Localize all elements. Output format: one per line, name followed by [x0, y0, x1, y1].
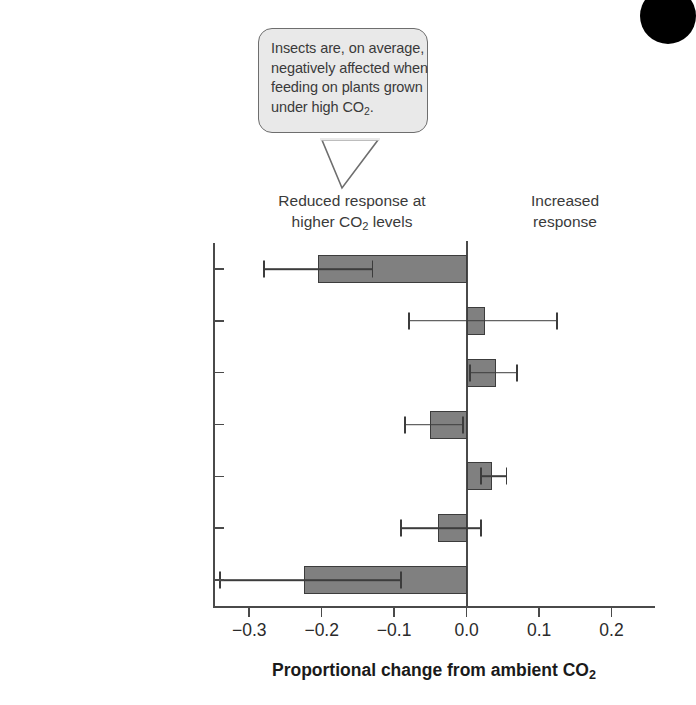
- callout-line-4-text: under high CO: [271, 99, 364, 115]
- error-bar-line: [470, 372, 517, 374]
- annotation-reduced-line2-post: levels: [368, 213, 412, 230]
- error-bar-cap: [462, 416, 464, 433]
- error-bar-cap: [556, 312, 558, 329]
- callout-line-1: Insects are, on average,: [271, 39, 415, 59]
- y-tick: [213, 372, 224, 374]
- annotation-increased-response: Increased response: [490, 190, 640, 232]
- x-tick-label: −0.3: [232, 620, 267, 641]
- annotation-increased-line2: response: [490, 211, 640, 232]
- error-bar-cap: [400, 520, 402, 537]
- x-tick-label: −0.1: [377, 620, 412, 641]
- annotation-increased-line1: Increased: [490, 190, 640, 211]
- corner-dot-decoration: [640, 0, 696, 44]
- callout-line-3: feeding on plants grown: [271, 78, 415, 98]
- y-axis-line: [213, 243, 215, 608]
- error-bar-cap: [404, 416, 406, 433]
- error-bar-line: [264, 268, 373, 270]
- annotation-reduced-response: Reduced response at higher CO2 levels: [238, 190, 466, 237]
- x-tick-label: 0.2: [599, 620, 623, 641]
- y-tick: [213, 320, 224, 322]
- x-tick-label: −0.2: [304, 620, 339, 641]
- x-axis-title: Proportional change from ambient CO2: [213, 660, 655, 682]
- error-bar-cap: [408, 312, 410, 329]
- x-tick: [538, 606, 540, 617]
- callout-box: Insects are, on average, negatively affe…: [258, 28, 428, 133]
- plot-area: −0.3−0.2−0.10.00.10.2: [213, 243, 655, 608]
- y-tick: [213, 579, 224, 581]
- error-bar-cap: [480, 520, 482, 537]
- error-bar-cap: [372, 260, 374, 277]
- error-bar-cap: [400, 572, 402, 589]
- y-tick: [213, 268, 224, 270]
- error-bar-line: [220, 579, 401, 581]
- annotation-reduced-line1: Reduced response at: [238, 190, 466, 211]
- x-tick: [321, 606, 323, 617]
- callout-line-4-period: .: [370, 99, 374, 115]
- x-axis-title-subscript: 2: [589, 668, 596, 682]
- x-tick-label: 0.0: [454, 620, 478, 641]
- y-tick: [213, 476, 224, 478]
- x-axis-line: [213, 606, 655, 608]
- error-bar-cap: [480, 468, 482, 485]
- error-bar-line: [401, 527, 481, 529]
- callout-tail-icon: [318, 138, 388, 190]
- y-tick: [213, 527, 224, 529]
- annotation-reduced-line2-pre: higher CO: [292, 213, 363, 230]
- x-tick: [248, 606, 250, 617]
- error-bar-line: [409, 320, 558, 322]
- callout-line-4: under high CO2.: [271, 98, 415, 121]
- x-tick: [393, 606, 395, 617]
- callout-line-2: negatively affected when: [271, 59, 415, 79]
- x-tick: [466, 606, 468, 617]
- x-axis-title-text: Proportional change from ambient CO: [272, 660, 589, 680]
- x-tick-label: 0.1: [527, 620, 551, 641]
- x-tick: [611, 606, 613, 617]
- error-bar-cap: [506, 468, 508, 485]
- error-bar-line: [405, 424, 463, 426]
- y-tick: [213, 424, 224, 426]
- annotation-reduced-line2: higher CO2 levels: [238, 211, 466, 237]
- error-bar-cap: [516, 364, 518, 381]
- error-bar-cap: [469, 364, 471, 381]
- error-bar-line: [481, 476, 506, 478]
- error-bar-cap: [263, 260, 265, 277]
